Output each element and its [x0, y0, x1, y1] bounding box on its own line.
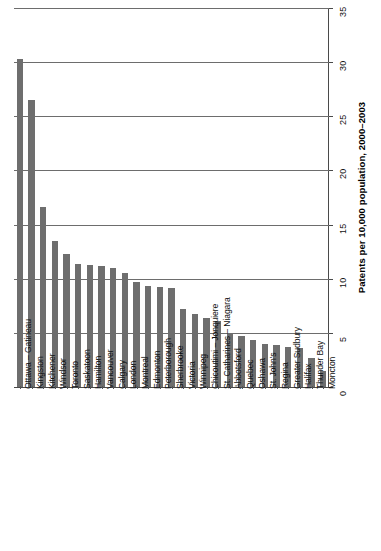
- x-tick-mark: [125, 386, 126, 389]
- y-tick-mark: [329, 8, 333, 9]
- y-tick-label: 5: [338, 337, 348, 342]
- x-tick-label: London: [128, 361, 138, 389]
- x-tick-label: Sherbrooke: [175, 346, 185, 389]
- x-tick-mark: [195, 386, 196, 389]
- y-tick-mark: [329, 62, 333, 63]
- x-tick-label: Thunder Bay: [315, 341, 325, 389]
- y-tick-mark: [329, 279, 333, 280]
- x-tick-label: Hamilton: [93, 356, 103, 389]
- x-axis-labels: Ottawa – GatineauKingstonKitchenerWindso…: [14, 389, 329, 549]
- x-tick-mark: [160, 386, 161, 389]
- x-tick-mark: [253, 386, 254, 389]
- x-tick-mark: [90, 386, 91, 389]
- x-tick-label: Saskatoon: [82, 349, 92, 389]
- x-tick-mark: [172, 386, 173, 389]
- x-tick-mark: [312, 386, 313, 389]
- x-tick-mark: [55, 386, 56, 389]
- x-tick-label: Abbotsford: [233, 348, 243, 389]
- x-tick-label: Regina: [280, 362, 290, 389]
- y-tick-mark: [329, 333, 333, 334]
- y-tick-mark: [329, 225, 333, 226]
- x-tick-label: Kingston: [35, 356, 45, 389]
- x-tick-mark: [43, 386, 44, 389]
- x-tick-mark: [277, 386, 278, 389]
- x-tick-mark: [148, 386, 149, 389]
- y-axis-title: Patents per 10,000 population, 2000–2003: [352, 8, 370, 387]
- x-tick-label: St. Catharines – Niagara: [222, 297, 232, 389]
- x-tick-mark: [288, 386, 289, 389]
- x-tick-mark: [102, 386, 103, 389]
- x-tick-mark: [113, 386, 114, 389]
- x-tick-label: Ottawa – Gatineau: [23, 319, 33, 389]
- x-tick-mark: [67, 386, 68, 389]
- patents-bar-chart: 05101520253035 Patents per 10,000 popula…: [0, 0, 381, 551]
- x-tick-mark: [230, 386, 231, 389]
- x-tick-label: Vancouver: [105, 349, 115, 389]
- x-tick-label: Moncton: [327, 357, 337, 389]
- x-tick-label: Peterborough: [163, 338, 173, 389]
- x-tick-mark: [137, 386, 138, 389]
- y-tick-mark: [329, 170, 333, 171]
- x-tick-label: Windsor: [58, 358, 68, 389]
- bars-layer: [14, 8, 329, 387]
- x-tick-mark: [32, 386, 33, 389]
- x-tick-mark: [265, 386, 266, 389]
- y-tick-label: 35: [338, 7, 348, 17]
- x-tick-mark: [207, 386, 208, 389]
- y-tick-label: 25: [338, 115, 348, 125]
- x-tick-mark: [242, 386, 243, 389]
- x-tick-label: St. John's: [268, 353, 278, 389]
- x-tick-mark: [300, 386, 301, 389]
- x-tick-label: Greater Sudbury: [292, 327, 302, 389]
- x-tick-label: Edmonton: [152, 351, 162, 389]
- y-tick-label: 15: [338, 223, 348, 233]
- x-tick-label: Montreal: [140, 356, 150, 389]
- x-tick-mark: [20, 386, 21, 389]
- x-tick-label: Winnipeg: [198, 354, 208, 389]
- x-tick-label: Calgary: [117, 360, 127, 389]
- y-tick-label: 10: [338, 277, 348, 287]
- y-tick-label: 20: [338, 169, 348, 179]
- x-tick-mark: [323, 386, 324, 389]
- y-tick-label: 0: [338, 391, 348, 396]
- x-tick-label: Quebec: [245, 360, 255, 390]
- y-tick-mark: [329, 116, 333, 117]
- x-tick-mark: [183, 386, 184, 389]
- x-tick-label: Victoria: [187, 361, 197, 389]
- x-tick-label: Toronto: [70, 361, 80, 389]
- x-tick-label: Oshawa: [257, 358, 267, 389]
- plot-area: [14, 8, 329, 387]
- x-tick-mark: [78, 386, 79, 389]
- y-tick-label: 30: [338, 61, 348, 71]
- x-tick-label: Kitchener: [47, 354, 57, 389]
- x-tick-label: Chicoutimi – Jonquiere: [210, 304, 220, 389]
- x-tick-mark: [218, 386, 219, 389]
